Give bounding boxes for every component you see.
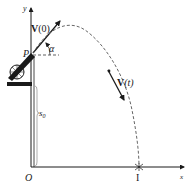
diagram-canvas: y x O P V(0) α V(t) s0 I bbox=[0, 0, 187, 187]
launch-point-label: P bbox=[22, 48, 29, 59]
origin-label: O bbox=[25, 172, 32, 183]
velocity-t-label: V(t) bbox=[117, 77, 134, 89]
velocity-t-point bbox=[108, 70, 111, 73]
height-label: s0 bbox=[39, 108, 46, 119]
impact-label: I bbox=[136, 172, 139, 183]
projectile-diagram: y x O P V(0) α V(t) s0 I bbox=[0, 0, 187, 187]
cannon-platform bbox=[7, 82, 32, 86]
x-axis-label: x bbox=[179, 173, 184, 181]
initial-velocity-label: V(0) bbox=[31, 23, 50, 35]
height-brace bbox=[35, 86, 39, 166]
y-axis-label: y bbox=[22, 4, 27, 13]
angle-label: α bbox=[49, 43, 55, 54]
